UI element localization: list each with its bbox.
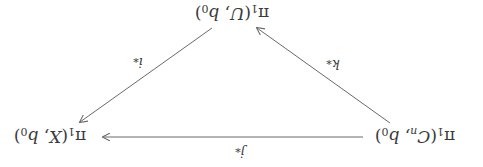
arrow-k-star [257, 28, 390, 123]
arrow-i-star [80, 28, 212, 122]
label-i-star: i* [133, 52, 143, 70]
node-pi1-U: π1(U, b0) [195, 2, 270, 24]
node-pi1-Cn: π1(Cn, b0) [375, 125, 455, 147]
commutative-diagram: π1(U, b0) π1(Cn, b0) π1(X, b0) k* i* j* [0, 0, 483, 167]
node-pi1-X: π1(X, b0) [14, 125, 86, 147]
label-j-star: j* [235, 142, 245, 160]
label-k-star: k* [326, 54, 339, 72]
